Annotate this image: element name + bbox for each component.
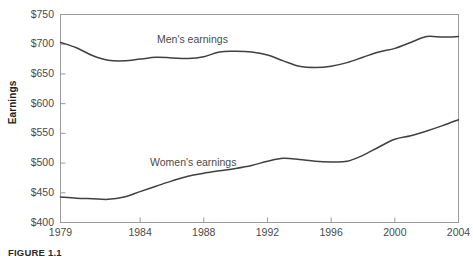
plot-frame [61, 15, 459, 223]
series-label-womens-earnings: Women's earnings [150, 156, 236, 168]
series-line-mens-earnings [61, 36, 459, 67]
axis-tick-marks [61, 15, 459, 223]
figure-caption: FIGURE 1.1 [8, 247, 62, 258]
series-lines [61, 36, 459, 199]
series-label-mens-earnings: Men's earnings [157, 33, 228, 45]
figure-container: Earnings $400$450$500$550$600$650$700$75… [0, 0, 473, 258]
line-chart-plot [0, 0, 473, 258]
series-line-womens-earnings [61, 120, 459, 200]
